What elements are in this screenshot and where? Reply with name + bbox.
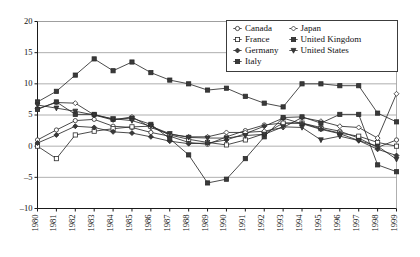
data-point [338,112,342,116]
data-point [224,143,228,147]
data-point [394,144,398,148]
legend-label: United Kingdom [301,34,362,45]
legend-point [235,37,239,41]
data-point [394,91,399,96]
data-point [54,128,58,132]
legend-item-united-states[interactable]: United States [289,45,362,56]
legend-point [235,59,239,63]
legend-point [235,26,239,30]
legend-label: United States [301,45,349,56]
legend-point [235,48,240,53]
data-point [224,130,229,135]
data-point [149,71,153,75]
data-point [338,84,342,88]
x-tick-label-1987: 1987 [162,215,172,232]
x-tick-label-1990: 1990 [218,215,228,232]
legend-marker-square-fill-icon [233,57,242,66]
legend-marker-square-open-icon [233,35,242,44]
data-point [73,124,78,129]
x-tick-label-1991: 1991 [237,215,247,232]
legend-marker-diamond-open-icon [289,24,298,33]
x-axis-tick-labels: 1980198119821983198419851986198719881989… [30,209,399,232]
data-point [129,131,134,136]
data-point [243,157,247,161]
data-point [205,88,209,92]
y-tick-label-0: 0 [28,141,32,151]
data-point [54,100,58,104]
legend-point [291,37,295,41]
legend-label: France [245,34,270,45]
x-tick-label-1995: 1995 [313,215,323,232]
data-point [73,133,77,137]
data-point [375,136,380,141]
x-tick-label-1999: 1999 [389,215,399,232]
data-point [394,157,399,162]
x-tick-label-1989: 1989 [200,215,210,232]
data-point [73,119,77,123]
data-point [394,170,398,174]
legend-item-canada[interactable]: Canada [233,23,279,34]
legend-item-germany[interactable]: Germany [233,45,279,56]
legend-marker-triangle-fill-icon [289,46,298,55]
data-point [281,115,285,119]
legend-column-1: CanadaFranceGermanyItaly [233,23,279,67]
legend-label: Canada [245,23,272,34]
data-point [300,82,304,86]
data-point [394,120,398,124]
legend-columns: CanadaFranceGermanyItalyJapanUnited King… [227,21,397,67]
data-point [130,60,134,64]
y-tick-label--10: –10 [19,203,33,213]
y-tick-label-20: 20 [24,16,33,26]
data-point [54,89,58,93]
x-tick-label-1993: 1993 [275,215,285,232]
data-point [187,153,191,157]
y-tick-label--5: –5 [23,172,33,182]
x-tick-label-1994: 1994 [294,214,304,232]
x-tick-label-1984: 1984 [105,214,115,232]
y-axis-tick-labels: 20151050–5–10 [19,16,38,213]
legend-label: Italy [245,56,262,67]
data-point [394,138,398,142]
legend: CanadaFranceGermanyItalyJapanUnited King… [226,20,398,72]
data-point [376,111,380,115]
data-series-layer [35,57,399,185]
data-point [111,69,115,73]
legend-item-france[interactable]: France [233,34,279,45]
legend-point [291,26,296,31]
x-tick-label-1983: 1983 [86,215,96,232]
legend-item-italy[interactable]: Italy [233,56,279,67]
data-point [300,115,304,119]
x-tick-label-1997: 1997 [351,215,361,232]
legend-column-2: JapanUnited KingdomUnited States [289,23,362,67]
data-point [262,101,266,105]
data-point [73,73,77,77]
data-point [92,57,96,61]
legend-label: Germany [245,45,279,56]
data-point [319,82,323,86]
data-point [224,86,228,90]
legend-marker-circle-open-icon [233,24,242,33]
data-point [356,125,361,130]
x-tick-label-1998: 1998 [370,215,380,232]
data-point [319,121,323,125]
data-point [54,157,58,161]
legend-item-japan[interactable]: Japan [289,23,362,34]
legend-marker-square-fill-icon [289,35,298,44]
x-tick-label-1988: 1988 [181,215,191,232]
y-tick-label-5: 5 [28,109,32,119]
data-point [357,112,361,116]
data-point [168,78,172,82]
data-point [243,94,247,98]
x-tick-label-1996: 1996 [332,215,342,232]
legend-marker-diamond-fill-icon [233,46,242,55]
data-point [319,138,324,143]
y-tick-label-10: 10 [24,78,33,88]
x-tick-label-1980: 1980 [30,215,40,232]
legend-item-united-kingdom[interactable]: United Kingdom [289,34,362,45]
y-tick-label-15: 15 [24,47,33,57]
chart-root: 20151050–5–10 19801981198219831984198519… [0,0,420,257]
data-point [376,163,380,167]
x-tick-label-1985: 1985 [124,215,134,232]
data-point [130,125,134,129]
data-point [148,134,153,139]
